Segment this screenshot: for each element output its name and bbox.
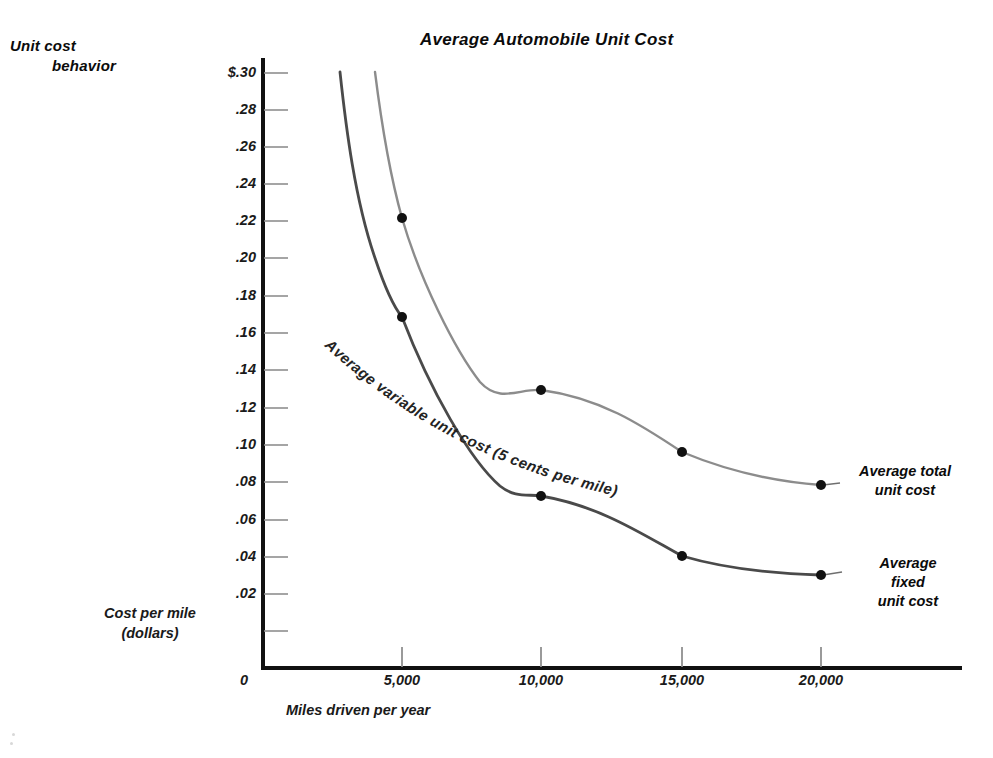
y-tick-label: .14	[196, 361, 256, 377]
data-point	[816, 480, 826, 490]
data-point	[536, 385, 546, 395]
y-tick-label: .04	[196, 548, 256, 564]
x-axis-title: Miles driven per year	[286, 702, 430, 718]
data-point	[536, 491, 546, 501]
y-tick-label: .26	[196, 138, 256, 154]
series-label-line2: unit cost	[875, 482, 935, 498]
y-tick-label: $.30	[196, 64, 256, 80]
x-tick-label: 20,000	[761, 672, 881, 688]
series-label-line3: unit cost	[878, 593, 938, 609]
y-tick-marks	[264, 73, 288, 631]
data-point	[397, 213, 407, 223]
data-point	[397, 312, 407, 322]
series-label-line1: Average	[879, 555, 936, 571]
y-tick-label: .22	[196, 212, 256, 228]
y-tick-label: .06	[196, 511, 256, 527]
chart-plot-area	[0, 0, 993, 758]
x-axis-origin-label: 0	[200, 672, 248, 688]
y-axis-title-line1: Cost per mile	[104, 605, 196, 621]
data-point	[677, 447, 687, 457]
x-tick-label: 15,000	[622, 672, 742, 688]
data-point	[816, 570, 826, 580]
data-point	[677, 551, 687, 561]
x-tick-marks	[402, 647, 821, 667]
y-tick-label: .24	[196, 175, 256, 191]
x-tick-label: 10,000	[481, 672, 601, 688]
y-tick-label: .28	[196, 101, 256, 117]
series-line-average-fixed-unit-cost	[340, 72, 821, 575]
chart-page: Unit cost behavior Average Automobile Un…	[0, 0, 993, 758]
x-tick-label: 5,000	[342, 672, 462, 688]
series-label-line2: fixed	[891, 574, 925, 590]
y-axis-title: Cost per mile (dollars)	[60, 604, 240, 643]
series-line-average-total-unit-cost	[375, 72, 821, 485]
y-axis-title-line2: (dollars)	[121, 625, 178, 641]
y-tick-label: .10	[196, 436, 256, 452]
series-label-average-fixed-unit-cost: Average fixed unit cost	[838, 554, 978, 611]
series-label-average-total-unit-cost: Average total unit cost	[830, 462, 980, 500]
y-tick-label: .08	[196, 473, 256, 489]
series-points-average-total-unit-cost	[397, 213, 826, 490]
series-label-line1: Average total	[859, 463, 951, 479]
y-tick-label: .18	[196, 287, 256, 303]
y-tick-label: .02	[196, 585, 256, 601]
y-tick-label: .16	[196, 324, 256, 340]
y-tick-label: .20	[196, 249, 256, 265]
y-tick-label: .12	[196, 399, 256, 415]
